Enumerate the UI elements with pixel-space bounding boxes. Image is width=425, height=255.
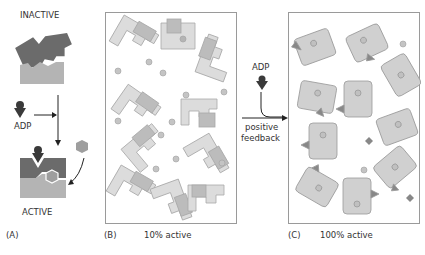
adp-label-feedback: ADP [252,62,270,72]
panel-c-frame [288,12,420,224]
panel-c-letter: (C) [288,230,301,240]
panel-b-frame [105,12,237,224]
active-population [289,13,421,225]
feedback-label: feedback [241,133,280,143]
panel-b-caption: 10% active [144,230,191,240]
panel-b-letter: (B) [104,230,116,240]
adp-effector-icon-a [14,101,26,118]
positive-label: positive [245,122,278,132]
inactive-population [106,13,238,225]
panel-a-letter: (A) [6,230,18,240]
panel-a-schematic [0,0,110,230]
panel-c-caption: 100% active [320,230,373,240]
inactive-catalytic-subunit [20,62,64,84]
active-enzyme-complex [20,146,66,198]
ligand-icon-a [76,140,88,153]
